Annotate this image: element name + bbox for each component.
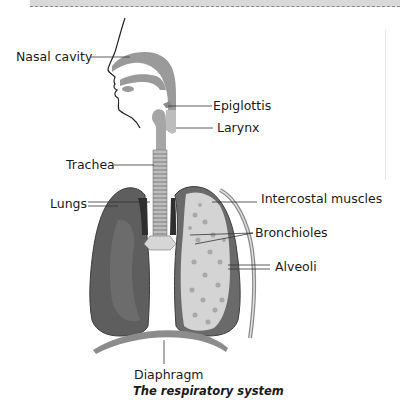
- face-profile: [108, 18, 140, 128]
- label-lungs: Lungs: [50, 197, 87, 211]
- right-lung-alveoli-area: [181, 193, 230, 331]
- figure-caption: The respiratory system: [133, 384, 284, 398]
- label-larynx: Larynx: [217, 121, 259, 135]
- larynx-shape: [152, 109, 166, 150]
- label-intercostal-muscles: Intercostal muscles: [261, 192, 382, 206]
- tongue-tip: [122, 86, 134, 92]
- label-bronchioles: Bronchioles: [255, 226, 328, 240]
- label-diaphragm: Diaphragm: [134, 368, 204, 382]
- label-alveoli: Alveoli: [275, 260, 317, 274]
- label-epiglottis: Epiglottis: [213, 99, 271, 113]
- bronchi-shape: [144, 236, 176, 250]
- label-trachea: Trachea: [66, 158, 115, 172]
- label-nasal-cavity: Nasal cavity: [16, 50, 92, 64]
